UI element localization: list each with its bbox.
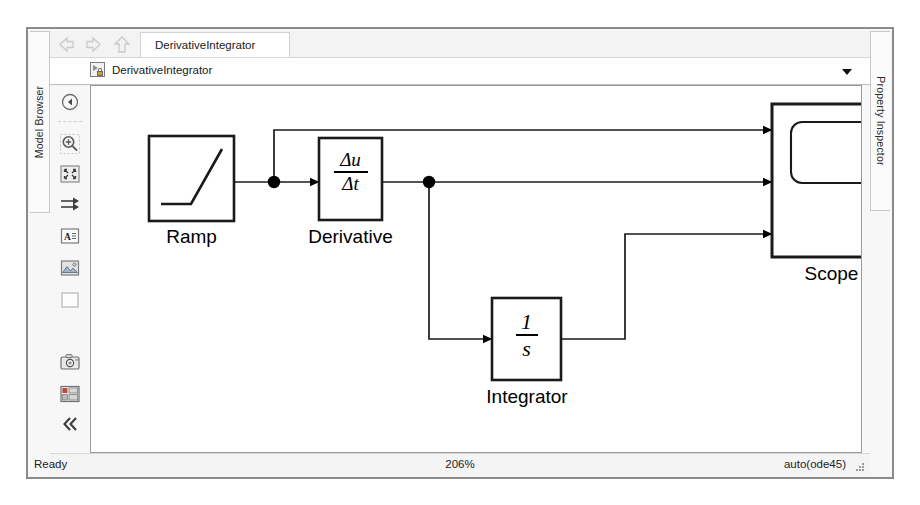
annotation-text-icon[interactable]: A <box>59 225 81 247</box>
property-inspector-tab[interactable]: Property Inspector <box>870 31 890 211</box>
block-label-scope: Scope <box>772 263 862 285</box>
breadcrumb-label: DerivativeIntegrator <box>112 64 212 76</box>
derivative-denominator: Δt <box>334 174 368 194</box>
model-canvas[interactable]: Δu Δt 1 s Ramp Derivative Integrator Sco… <box>90 85 862 453</box>
navigate-back-icon[interactable] <box>59 91 81 113</box>
status-zoom-level[interactable]: 206% <box>445 458 474 470</box>
breadcrumb[interactable]: DerivativeIntegrator <box>90 62 212 77</box>
collapse-palette-icon[interactable] <box>59 413 81 435</box>
model-locked-icon <box>90 62 105 77</box>
up-arrow-icon[interactable] <box>112 35 132 54</box>
editor-area: DerivativeIntegrator DerivativeIntegrato… <box>50 31 870 475</box>
palette-divider-1 <box>58 121 82 122</box>
model-browser-tab[interactable]: Model Browser <box>30 31 50 213</box>
model-browser-tab-label: Model Browser <box>34 86 46 159</box>
navigation-row: DerivativeIntegrator <box>50 31 870 57</box>
signal-routing-icon[interactable] <box>59 193 81 215</box>
status-ready: Ready <box>34 458 67 470</box>
resize-grip-icon[interactable] <box>855 462 865 472</box>
chevron-down-icon[interactable] <box>842 69 852 75</box>
blank-area-icon[interactable] <box>59 289 81 311</box>
simulink-editor-window: Model Browser Property Inspector <box>26 27 894 479</box>
camera-snapshot-icon[interactable] <box>59 351 81 373</box>
integrator-numerator: 1 <box>516 310 538 333</box>
property-inspector-tab-label: Property Inspector <box>875 76 887 165</box>
zoom-in-icon[interactable] <box>59 133 81 155</box>
layout-panels-icon[interactable] <box>59 383 81 405</box>
block-scope <box>772 104 862 257</box>
signal-junction <box>268 176 280 188</box>
block-label-derivative: Derivative <box>287 226 414 248</box>
derivative-numerator: Δu <box>334 150 368 170</box>
image-area-icon[interactable] <box>59 257 81 279</box>
block-label-integrator: Integrator <box>465 386 589 408</box>
signal-junction <box>423 176 435 188</box>
canvas-toolbar: A <box>50 85 90 453</box>
back-arrow-icon[interactable] <box>56 35 76 54</box>
block-ramp <box>149 136 234 221</box>
status-solver[interactable]: auto(ode45) <box>784 458 846 470</box>
fit-to-view-icon[interactable] <box>59 163 81 185</box>
status-bar: Ready 206% auto(ode45) <box>50 453 870 475</box>
integrator-denominator: s <box>516 337 538 360</box>
block-label-ramp: Ramp <box>149 226 234 248</box>
derivative-expression: Δu Δt <box>319 150 382 194</box>
tab-label: DerivativeIntegrator <box>155 39 255 51</box>
breadcrumb-bar: DerivativeIntegrator <box>50 57 870 85</box>
integrator-expression: 1 s <box>492 310 561 360</box>
tab-derivative-integrator[interactable]: DerivativeIntegrator <box>140 32 290 57</box>
forward-arrow-icon[interactable] <box>84 35 104 54</box>
svg-text:A: A <box>64 232 71 242</box>
